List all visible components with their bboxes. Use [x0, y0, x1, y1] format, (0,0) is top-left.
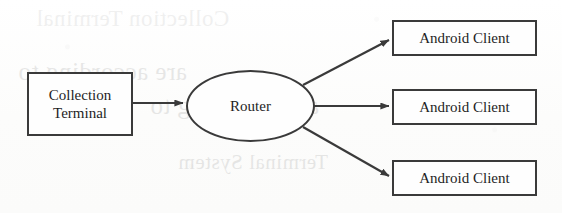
- node-android-client-1-label: Android Client: [419, 29, 509, 47]
- node-collection-terminal-label: Collection Terminal: [49, 86, 112, 123]
- node-label-line-2: Terminal: [53, 105, 107, 121]
- node-android-client-1: Android Client: [392, 20, 537, 56]
- node-router-label: Router: [230, 98, 271, 115]
- node-router: Router: [186, 70, 315, 142]
- node-collection-terminal: Collection Terminal: [27, 72, 133, 136]
- connector-router-to-client-1: [303, 40, 389, 85]
- scan-bleedthrough-text: Collection Terminal: [36, 6, 229, 32]
- connector-router-to-client-3: [303, 127, 389, 176]
- node-android-client-2-label: Android Client: [419, 98, 509, 116]
- network-architecture-diagram: are according to are according to Termin…: [0, 0, 562, 213]
- node-label-line-1: Collection: [49, 87, 112, 103]
- node-android-client-3: Android Client: [392, 160, 537, 196]
- scan-bleedthrough-text: Terminal System: [178, 150, 328, 175]
- node-android-client-2: Android Client: [392, 89, 537, 125]
- node-android-client-3-label: Android Client: [419, 169, 509, 187]
